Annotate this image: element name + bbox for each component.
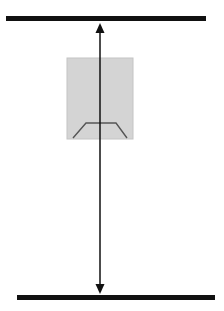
diagram-svg bbox=[0, 0, 224, 311]
top-surface-bar bbox=[6, 16, 206, 21]
bottom-surface-bar bbox=[17, 295, 215, 300]
arrowhead-down-icon bbox=[96, 284, 105, 294]
arrowhead-up-icon bbox=[96, 23, 105, 33]
diagram-canvas bbox=[0, 0, 224, 311]
